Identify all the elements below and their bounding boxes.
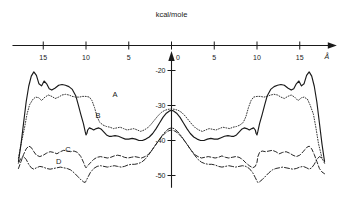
y-tick-group: -20-30-40-50 [155, 67, 175, 179]
x-axis-arrowhead [328, 42, 337, 48]
x-tick-label: 0 [176, 54, 180, 61]
figure-container: kcal/moleÅ15105051015-20-30-40-50ABCD [0, 0, 343, 205]
chart-title: kcal/mole [156, 10, 188, 19]
y-tick-label: -30 [155, 102, 165, 109]
curve-label-c: C [65, 145, 71, 154]
x-tick-label: 10 [253, 54, 261, 61]
x-tick-label: 15 [296, 54, 304, 61]
y-axis-arrowhead [168, 51, 174, 61]
x-tick-label: 15 [39, 54, 47, 61]
y-tick-label: -20 [155, 67, 165, 74]
curve-labels-group: ABCD [56, 90, 118, 166]
y-tick-label: -50 [155, 172, 165, 179]
curve-label-b: B [95, 111, 100, 120]
x-axis-label: Å [323, 52, 329, 60]
curve-label-a: A [113, 90, 118, 99]
curve-a [18, 94, 322, 158]
x-tick-label: 10 [82, 54, 90, 61]
x-tick-label: 5 [212, 54, 216, 61]
x-tick-label: 5 [127, 54, 131, 61]
curve-label-d: D [56, 157, 62, 166]
energy-profile-chart: kcal/moleÅ15105051015-20-30-40-50ABCD [0, 0, 343, 205]
axes-group [12, 42, 336, 187]
